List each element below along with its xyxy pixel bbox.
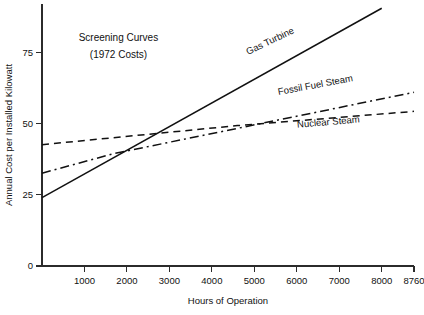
x-tick-label: 1000 (74, 275, 95, 286)
y-tick-label: 25 (22, 189, 33, 200)
x-tick-label: 4000 (201, 275, 222, 286)
chart-canvas: 0255075 10002000300040005000600070008000… (0, 0, 424, 315)
y-axis-title: Annual Cost per Installed Kilowatt (3, 64, 14, 206)
x-tick-label: 3000 (159, 275, 180, 286)
chart-subtitle: (1972 Costs) (90, 49, 147, 60)
series-labels-group: Gas TurbineFossil Fuel SteamNuclear Stea… (244, 25, 360, 130)
y-tick-label: 0 (28, 260, 33, 271)
x-axis-ticks: 100020003000400050006000700080008760 (74, 266, 424, 286)
chart-title-group: Screening Curves (1972 Costs) (79, 32, 158, 60)
series-line-fossil-fuel-steam (42, 92, 414, 173)
series-label-fossil-fuel-steam: Fossil Fuel Steam (277, 72, 354, 97)
y-tick-label: 75 (22, 47, 33, 58)
x-tick-label: 2000 (116, 275, 137, 286)
y-tick-label: 50 (22, 118, 33, 129)
x-tick-label: 8000 (371, 275, 392, 286)
series-label-gas-turbine: Gas Turbine (244, 25, 295, 57)
y-axis-ticks: 0255075 (22, 47, 42, 272)
series-label-nuclear-steam: Nuclear Steam (297, 113, 361, 129)
x-tick-label: 8760 (403, 275, 424, 286)
chart-title: Screening Curves (79, 32, 158, 43)
x-tick-label: 7000 (329, 275, 350, 286)
x-axis-title: Hours of Operation (188, 295, 268, 306)
x-tick-label: 6000 (286, 275, 307, 286)
axes-group (42, 4, 414, 266)
screening-curves-chart: 0255075 10002000300040005000600070008000… (0, 0, 424, 315)
x-tick-label: 5000 (244, 275, 265, 286)
